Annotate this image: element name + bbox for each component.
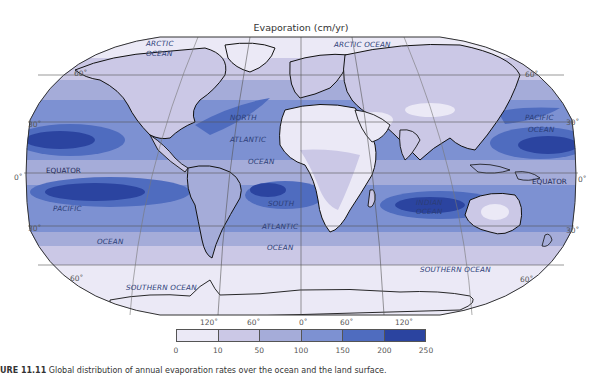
legend-tick: 100 [294,346,308,355]
label-ocean-right: OCEAN [528,125,555,134]
label-atlantic-s: ATLANTIC [261,222,298,231]
legend-tick: 0 [174,346,179,355]
label-equator-right: EQUATOR [532,177,567,186]
legend-swatch-100-150 [302,330,344,341]
lon-60e: 60˚ [340,318,353,327]
legend-tick: 10 [213,346,223,355]
label-southern-left: SOUTHERN OCEAN [126,283,197,292]
label-atlantic-n: ATLANTIC [229,135,266,144]
label-north: NORTH [230,113,257,122]
label-arctic-right: ARCTIC OCEAN [333,40,391,49]
lon-120w: 120˚ [200,318,218,327]
label-pacific-left: PACIFIC [53,204,82,213]
lon-120e: 120˚ [395,318,413,327]
label-south: SOUTH [268,199,295,208]
lat-0-right: 0˚ [578,175,587,184]
label-equator-left: EQUATOR [46,166,81,175]
label-indian-2: OCEAN [416,207,443,216]
caption-label: URE 11.11 [0,366,46,375]
lat-60n-left: 60˚ [74,69,87,78]
legend-tick: 200 [377,346,391,355]
legend-swatch-10-50 [219,330,261,341]
figure-caption: URE 11.11 Global distribution of annual … [0,366,602,375]
label-ocean-n: OCEAN [248,157,275,166]
evaporation-map: ARCTIC OCEAN ARCTIC OCEAN NORTH ATLANTIC… [0,0,602,376]
label-pacific-right: PACIFIC [525,113,554,122]
label-ocean-s: OCEAN [267,243,294,252]
lat-30s-left: 30˚ [28,224,41,233]
lat-30n-left: 30˚ [28,120,41,129]
lat-0-left: 0˚ [14,173,23,182]
legend-swatch-150-200 [343,330,385,341]
lon-60w: 60˚ [247,318,260,327]
label-indian-1: INDIAN [416,198,443,207]
legend-ticks: 0 10 50 100 150 200 250 [176,346,426,356]
lat-30s-right: 30˚ [566,226,579,235]
legend-swatch-50-100 [260,330,302,341]
legend-swatch-0-10 [177,330,219,341]
legend-swatch-200-250 [385,330,426,341]
lat-60s-left: 60˚ [70,274,83,283]
lon-0: 0˚ [299,318,308,327]
label-southern-right: SOUTHERN OCEAN [420,265,491,274]
lat-60n-right: 60˚ [525,70,538,79]
label-arctic-left-1: ARCTIC [145,39,174,48]
legend-tick: 50 [255,346,265,355]
caption-text: Global distribution of annual evaporatio… [49,366,387,375]
lat-60s-right: 60˚ [520,275,533,284]
legend-tick: 250 [419,346,433,355]
lat-30n-right: 30˚ [566,118,579,127]
label-ocean-left: OCEAN [97,237,124,246]
color-legend [176,329,426,342]
label-arctic-left-2: OCEAN [146,49,173,58]
legend-tick: 150 [336,346,350,355]
